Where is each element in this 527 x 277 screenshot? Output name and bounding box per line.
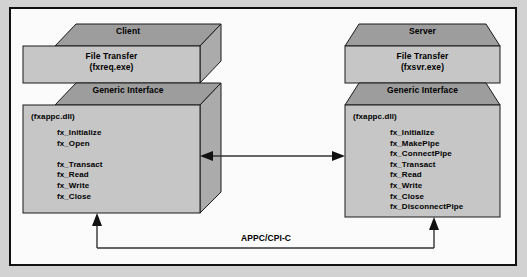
server-app-label-line2: (fxsvr.exe)	[345, 63, 500, 72]
server-top-face-label: Server	[345, 27, 500, 36]
function-name: fx_ConnectPipe	[390, 149, 463, 160]
function-name: fx_Write	[57, 181, 103, 192]
client-module-label: (fxappc.dll)	[31, 113, 75, 121]
function-name: fx_Transact	[390, 160, 463, 171]
client-function-list: fx_Initializefx_Open fx_Transactfx_Readf…	[57, 128, 103, 202]
server-module-label: (fxappc.dll)	[353, 113, 397, 121]
protocol-link-label: APPC/CPI-C	[196, 234, 336, 243]
server-interface-top-face-label: Generic Interface	[345, 86, 500, 95]
function-name: fx_Close	[390, 192, 463, 203]
client-interface-box-side-face	[200, 83, 221, 213]
client-app-label-line2: (fxreq.exe)	[23, 63, 200, 72]
client-app-label-line1: File Transfer	[23, 52, 200, 61]
function-name: fx_Write	[390, 181, 463, 192]
function-name: fx_Read	[390, 170, 463, 181]
client-interface-top-face-label: Generic Interface	[56, 86, 200, 95]
function-name: fx_Initialize	[57, 128, 103, 139]
client-top-face-label: Client	[56, 27, 200, 36]
interface-link-arrow	[200, 151, 345, 161]
function-name: fx_Read	[57, 170, 103, 181]
function-name: fx_Open	[57, 139, 103, 150]
function-list-spacer	[57, 149, 103, 160]
diagram-page: Client File Transfer (fxreq.exe) Generic…	[0, 0, 527, 277]
client-interface-box	[23, 83, 221, 213]
server-app-label-line1: File Transfer	[345, 52, 500, 61]
function-name: fx_Close	[57, 192, 103, 203]
function-name: fx_MakePipe	[390, 139, 463, 150]
server-function-list: fx_Initializefx_MakePipefx_ConnectPipefx…	[390, 128, 463, 213]
function-name: fx_Initialize	[390, 128, 463, 139]
function-name: fx_Transact	[57, 160, 103, 171]
function-name: fx_DisconnectPipe	[390, 202, 463, 213]
